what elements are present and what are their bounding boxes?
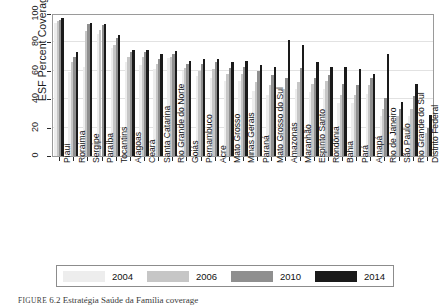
- x-tick-mark: [229, 157, 230, 161]
- x-tick-label: Mato Grosso do Sul: [275, 87, 285, 163]
- x-tick-label: Goiás: [190, 141, 200, 163]
- x-tick-label: Minas Gerais: [246, 112, 256, 163]
- x-tick-label: Distrito Federal: [430, 105, 440, 163]
- legend-swatch-2014: [315, 271, 357, 282]
- y-tick-mark: [47, 128, 51, 129]
- legend-item: 2006: [141, 271, 225, 282]
- x-tick-mark: [399, 157, 400, 161]
- x-tick-mark: [116, 157, 117, 161]
- x-tick-mark: [215, 157, 216, 161]
- x-tick-mark: [158, 157, 159, 161]
- x-tick-label: Mato Grosso: [232, 114, 242, 163]
- x-tick-mark: [102, 157, 103, 161]
- x-tick-mark: [201, 157, 202, 161]
- legend-item: 2004: [57, 271, 141, 282]
- x-tick-mark: [271, 157, 272, 161]
- legend: 2004 2006 2010 2014: [56, 265, 394, 287]
- x-tick-mark: [144, 157, 145, 161]
- y-tick-label: 40: [30, 87, 40, 109]
- bar-group: [366, 14, 376, 156]
- x-tick-mark: [328, 157, 329, 161]
- x-tick-mark: [243, 157, 244, 161]
- y-tick-mark: [47, 42, 51, 43]
- x-tick-label: Rio de Janeiro: [388, 108, 398, 163]
- x-tick-mark: [384, 157, 385, 161]
- x-tick-label: Amazonas: [289, 122, 299, 163]
- y-tick-mark: [47, 71, 51, 72]
- x-tick-mark: [356, 157, 357, 161]
- x-tick-label: Pará: [360, 145, 370, 163]
- x-tick-label: Acre: [218, 145, 228, 163]
- x-tick-label: Tocantins: [119, 127, 129, 163]
- x-tick-label: Maranhão: [303, 124, 313, 163]
- x-tick-mark: [370, 157, 371, 161]
- x-tick-label: Espírito Santo: [317, 109, 327, 163]
- caption-prefix: FIGURE: [18, 296, 49, 305]
- y-tick-label: 100: [30, 2, 40, 24]
- x-tick-mark: [59, 157, 60, 161]
- figure-caption: FIGURE 6.2 Estratégia Saúde da Família c…: [18, 295, 438, 306]
- y-tick-label: 20: [30, 116, 40, 138]
- legend-label: 2004: [112, 271, 133, 282]
- bar: [217, 59, 219, 156]
- legend-item: 2010: [225, 271, 309, 282]
- y-tick-label: 80: [30, 30, 40, 52]
- x-tick-label: Rio Grande do Norte: [176, 84, 186, 163]
- legend-swatch-2006: [147, 271, 189, 282]
- x-tick-label: Alagoas: [133, 132, 143, 163]
- x-tick-label: Sergipe: [91, 133, 101, 163]
- x-tick-label: Paraíba: [105, 133, 115, 163]
- x-tick-label: Roraima: [77, 131, 87, 163]
- x-tick-label: Pernambuco: [204, 114, 214, 163]
- x-tick-mark: [130, 157, 131, 161]
- legend-swatch-2004: [63, 271, 105, 282]
- x-tick-label: Rondônia: [331, 126, 341, 163]
- x-tick-mark: [186, 157, 187, 161]
- y-tick-mark: [47, 14, 51, 15]
- x-tick-label: Rio Grande do Sul: [416, 92, 426, 163]
- bar: [61, 18, 63, 156]
- x-tick-mark: [314, 157, 315, 161]
- x-tick-mark: [257, 157, 258, 161]
- x-tick-label: São Paulo: [402, 123, 412, 163]
- bar-group: [54, 14, 64, 156]
- y-tick-mark: [47, 156, 51, 157]
- x-tick-label: Ceará: [147, 140, 157, 163]
- x-tick-label: Bahia: [345, 141, 355, 163]
- x-tick-mark: [172, 157, 173, 161]
- legend-label: 2010: [280, 271, 301, 282]
- x-tick-mark: [285, 157, 286, 161]
- caption-text: 6.2 Estratégia Saúde da Família coverage: [49, 295, 198, 305]
- legend-swatch-2010: [231, 271, 273, 282]
- y-tick-mark: [47, 99, 51, 100]
- legend-label: 2014: [364, 271, 385, 282]
- legend-item: 2014: [309, 271, 393, 282]
- x-tick-mark: [73, 157, 74, 161]
- bar: [359, 69, 361, 156]
- bar-group: [351, 14, 361, 156]
- legend-label: 2006: [196, 271, 217, 282]
- x-tick-mark: [427, 157, 428, 161]
- x-tick-mark: [342, 157, 343, 161]
- x-tick-label: Santa Catarina: [162, 106, 172, 163]
- y-tick-label: 0: [30, 144, 40, 166]
- x-tick-mark: [413, 157, 414, 161]
- x-tick-label: Amapá: [374, 136, 384, 163]
- x-tick-mark: [300, 157, 301, 161]
- x-tick-label: Paraná: [261, 135, 271, 163]
- x-tick-mark: [87, 157, 88, 161]
- figure-esf-coverage: ESF Percent Coverage 020406080100 PiauíR…: [0, 0, 443, 306]
- x-tick-label: Piauí: [62, 143, 72, 163]
- y-tick-label: 60: [30, 59, 40, 81]
